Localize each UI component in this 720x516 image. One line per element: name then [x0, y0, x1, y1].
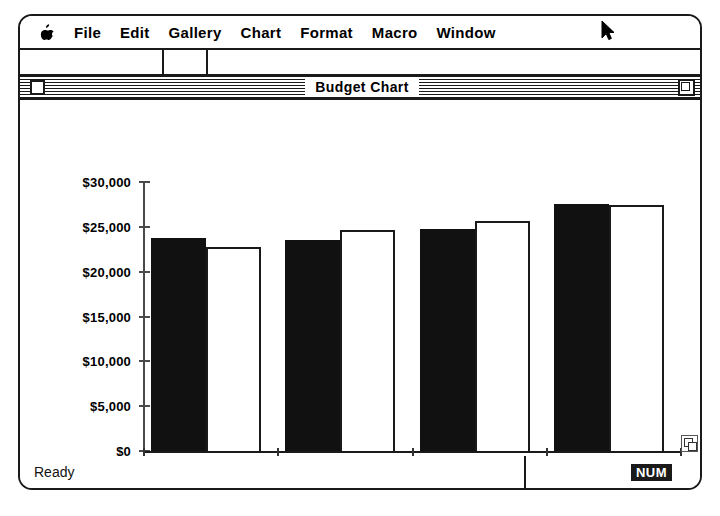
bar-1-series-1[interactable]	[151, 238, 206, 451]
y-axis-tick	[139, 360, 150, 362]
close-box-icon[interactable]	[30, 80, 45, 95]
y-axis-tick-label: $20,000	[39, 264, 131, 279]
bar-chart-plot: $0$5,000$10,000$15,000$20,000$25,000$30,…	[20, 100, 702, 456]
window-title-bar[interactable]: Budget Chart	[20, 76, 702, 100]
menu-item-gallery[interactable]: Gallery	[169, 24, 222, 41]
bar-2-series-1[interactable]	[285, 240, 340, 451]
status-message: Ready	[20, 464, 524, 480]
y-axis-tick	[139, 226, 150, 228]
menu-bar: File Edit Gallery Chart Format Macro Win…	[20, 16, 700, 50]
y-axis-tick-label: $30,000	[39, 175, 131, 190]
status-badge: NUM	[631, 464, 672, 481]
bar-3-series-1[interactable]	[420, 229, 475, 451]
x-axis-tick	[412, 448, 414, 456]
y-axis-tick	[139, 181, 150, 183]
chart-canvas: $0$5,000$10,000$15,000$20,000$25,000$30,…	[20, 100, 702, 456]
status-indicator-area: NUM	[524, 456, 702, 488]
y-axis-tick-label: $15,000	[39, 309, 131, 324]
y-axis-tick	[139, 316, 150, 318]
zoom-box-icon[interactable]	[678, 79, 695, 96]
menu-item-edit[interactable]: Edit	[120, 24, 150, 41]
bar-4-series-1[interactable]	[554, 204, 609, 451]
y-axis-tick-label: $10,000	[39, 354, 131, 369]
y-axis-tick-label: $5,000	[39, 399, 131, 414]
mouse-pointer-icon	[600, 20, 616, 42]
menu-item-macro[interactable]: Macro	[372, 24, 418, 41]
menu-item-format[interactable]: Format	[300, 24, 353, 41]
y-axis-tick	[139, 271, 150, 273]
bar-4-series-2[interactable]	[609, 205, 664, 451]
status-bar: Ready NUM	[20, 456, 702, 488]
y-axis-line	[143, 182, 145, 453]
x-axis-tick	[546, 448, 548, 456]
toolbar-strip	[20, 50, 700, 76]
menu-item-chart[interactable]: Chart	[241, 24, 282, 41]
toolbar-divider-2	[206, 50, 208, 76]
bar-3-series-2[interactable]	[475, 221, 530, 451]
bar-2-series-2[interactable]	[340, 230, 395, 451]
apple-icon[interactable]	[40, 24, 54, 40]
toolbar-divider-1	[162, 50, 164, 76]
window-title: Budget Chart	[305, 77, 418, 97]
grow-box-icon[interactable]	[681, 435, 698, 452]
bar-1-series-2[interactable]	[206, 247, 261, 451]
menu-item-file[interactable]: File	[74, 24, 101, 41]
mac-screen-bezel: File Edit Gallery Chart Format Macro Win…	[18, 14, 702, 490]
y-axis-tick-label: $25,000	[39, 219, 131, 234]
y-axis-tick-label: $0	[39, 444, 131, 457]
x-axis-tick-origin	[143, 448, 145, 456]
y-axis-tick	[139, 405, 150, 407]
document-window: Budget Chart $0$5,000$10,000$15,000$20,0…	[20, 76, 702, 458]
x-axis-tick	[277, 448, 279, 456]
menu-item-window[interactable]: Window	[437, 24, 496, 41]
